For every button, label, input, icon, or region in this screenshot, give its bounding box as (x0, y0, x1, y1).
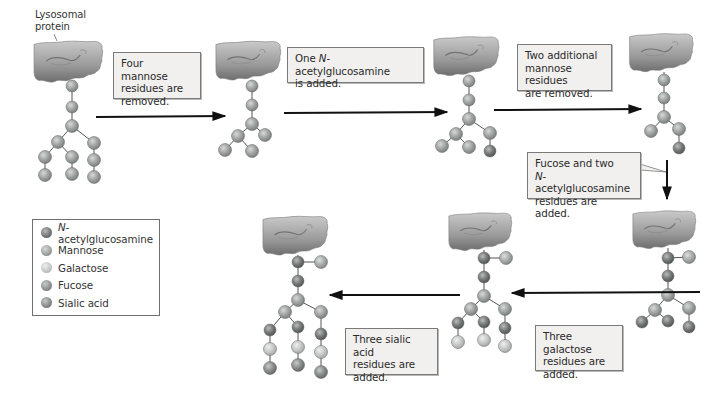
glcnac-residue (315, 328, 327, 340)
note-text: One (295, 52, 319, 64)
oligosaccharide-6 (452, 252, 513, 353)
protein-blob-6 (449, 213, 512, 251)
protein-blob-1 (34, 41, 103, 82)
mannose-residue (649, 304, 662, 317)
legend-label: Mannose (58, 244, 104, 256)
protein-blob-2 (216, 41, 281, 80)
arrow-step-3 (494, 109, 641, 110)
note-text: -acetylglucosamine (535, 170, 630, 195)
legend-text: -acetylglucosamine (58, 221, 153, 245)
mannose-residue (39, 151, 52, 164)
note-line: are removed. (525, 87, 604, 100)
note-line: Four mannose (121, 57, 193, 82)
glcnac-residue (662, 270, 674, 282)
note-line: Two additional (525, 49, 604, 62)
glcnac-residue (463, 94, 475, 106)
glcnac-residue (66, 101, 78, 113)
fucose-residue (315, 256, 328, 269)
mannose-residue (279, 306, 292, 319)
glcnac-residue (636, 316, 648, 328)
fucose-residue (683, 251, 696, 264)
note-line: N-acetylglucosamine (535, 170, 633, 195)
glcnac-residue (478, 271, 490, 283)
note-line: is added. (295, 77, 416, 90)
note-italic: N (535, 170, 543, 182)
legend-italic: N (58, 221, 66, 233)
note-line: Three galactose (543, 330, 615, 355)
mannose-residue (673, 123, 686, 136)
mannose-residue (88, 137, 101, 150)
oligosaccharide-1 (39, 80, 101, 184)
glcnac-residue (658, 92, 670, 104)
sialic-acid-swatch-icon (41, 297, 52, 308)
mannose-residue (315, 306, 328, 319)
galactose-residue (292, 341, 305, 354)
mannose-residue (88, 171, 101, 184)
glcnac-residue (478, 252, 490, 264)
note-line: residues are (543, 355, 615, 368)
protein-blob-3 (434, 37, 499, 76)
glcnac-residue (658, 74, 670, 86)
oligosaccharide-4 (645, 74, 686, 154)
oligosaccharide-2 (219, 80, 272, 158)
note-line: One N-acetylglucosamine (295, 52, 416, 77)
legend-item-galactose: Galactose (41, 259, 159, 277)
protein-blob-7 (263, 216, 328, 255)
galactose-residue (264, 343, 277, 356)
legend-item-sialic-acid: Sialic acid (41, 294, 159, 312)
legend-item-glcnac: N-acetylglucosamine (41, 224, 159, 242)
mannose-residue (484, 127, 497, 140)
mannose-residue (219, 144, 232, 157)
mannose-residue (436, 140, 449, 153)
callout-pointer (640, 164, 666, 172)
lysosomal-protein-label: Lysosomal protein (35, 9, 86, 32)
glcnac-swatch-icon (41, 227, 52, 238)
mannose-residue (39, 169, 52, 182)
glcnac-residue (292, 275, 304, 287)
note-line: Fucose and two (535, 157, 633, 170)
step-5-note: Three galactose residues are added. (535, 325, 623, 371)
mannose-residue (662, 289, 675, 302)
galactose-swatch-icon (41, 262, 52, 273)
legend-label: N-acetylglucosamine (58, 221, 159, 245)
note-line: residues are (121, 82, 193, 95)
arrow-step-1 (96, 116, 225, 117)
legend-item-fucose: Fucose (41, 277, 159, 295)
galactose-residue (499, 340, 512, 353)
note-line: residues are added. (535, 195, 633, 220)
mannose-residue (658, 111, 671, 124)
mannose-residue (66, 151, 79, 164)
note-line: added. (543, 368, 615, 381)
galactose-residue (478, 334, 491, 347)
galactose-residue (315, 346, 328, 359)
label-line: protein (35, 21, 86, 33)
glcnac-residue (246, 99, 258, 111)
glcnac-residue (246, 80, 258, 92)
mannose-residue (463, 113, 476, 126)
mannose-residue (246, 145, 259, 158)
mannose-residue (463, 141, 476, 154)
glcnac-residue (499, 322, 511, 334)
fucose-residue (500, 252, 513, 265)
step-1-note: Four mannose residues are removed. (113, 52, 201, 99)
step-2-note: One N-acetylglucosamine is added. (287, 47, 424, 83)
note-line: mannose residues (525, 62, 604, 87)
arrow-step-2 (284, 112, 447, 113)
step-4-note: Fucose and two N-acetylglucosamine resid… (527, 152, 641, 199)
legend-label: Galactose (58, 262, 108, 274)
glcnac-residue (484, 145, 496, 157)
glcnac-residue (292, 321, 304, 333)
mannose-residue (450, 128, 463, 141)
fucose-swatch-icon (41, 280, 52, 291)
mannose-residue (66, 168, 79, 181)
note-line: residues are (353, 358, 430, 371)
arrow-step-5 (512, 292, 700, 293)
note-line: added. (353, 371, 430, 384)
protein-blob-4 (630, 34, 694, 72)
glcnac-residue (683, 321, 695, 333)
oligosaccharide-3 (436, 75, 497, 157)
mannose-residue (683, 302, 696, 315)
legend-label: Sialic acid (58, 297, 109, 309)
sialic-acid-residue (292, 359, 305, 372)
glcnac-residue (264, 324, 276, 336)
